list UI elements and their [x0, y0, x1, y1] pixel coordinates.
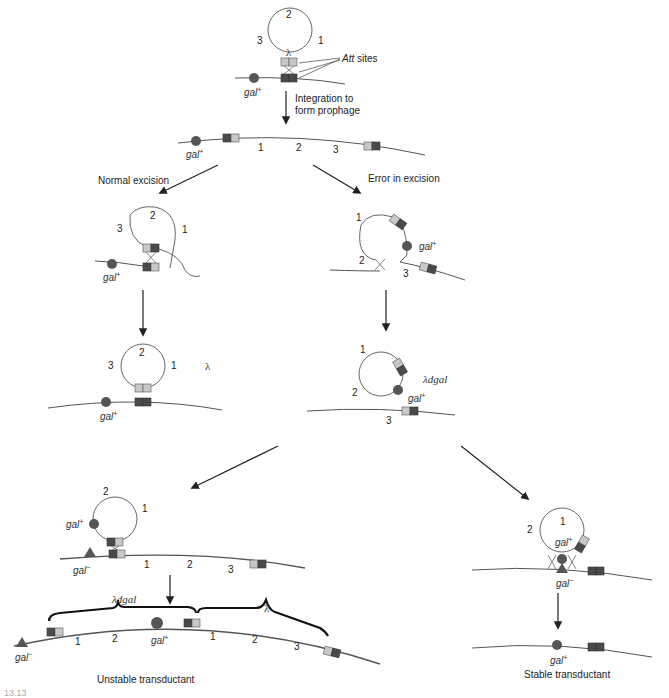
gene-2-label: 2 — [352, 387, 358, 398]
unstable-transductant-label: Unstable transductant — [97, 674, 195, 685]
stage-prophage: gal+ 1 2 3 — [178, 134, 425, 160]
gal-plus-label: gal+ — [550, 654, 567, 666]
gene-1-label: 1 — [144, 559, 150, 570]
lambda-label: λ — [264, 602, 270, 614]
att-site-bacterial — [588, 567, 604, 575]
gal-plus-label: gal+ — [408, 392, 425, 404]
gene-1-label: 1 — [356, 212, 362, 223]
gene-2-label: 2 — [296, 142, 302, 153]
unstable-branch-arrow — [192, 446, 278, 488]
att-site-loop — [389, 214, 407, 230]
normal-excision-label: Normal excision — [98, 175, 169, 186]
gene-1-label: 1 — [210, 631, 216, 642]
gene-3-label: 3 — [228, 564, 234, 575]
att-site-1 — [47, 628, 63, 636]
chromosome — [307, 409, 455, 415]
att-sites-label: Att sites — [341, 53, 378, 64]
lambda-dgal-circle — [93, 497, 137, 541]
gene-3-label: 3 — [108, 360, 114, 371]
att-site-right — [364, 142, 380, 150]
gene-3-label: 3 — [257, 35, 263, 46]
att-site-bacterial — [281, 74, 297, 82]
gal-plus-label: gal+ — [103, 271, 120, 283]
gal-plus-marker — [191, 136, 201, 146]
stable-transductant-label: Stable transductant — [524, 669, 610, 680]
gene-1-label: 1 — [258, 142, 264, 153]
gene-2-label: 2 — [527, 524, 533, 535]
gene-1-label: 1 — [318, 35, 324, 46]
gal-plus-marker — [249, 73, 259, 83]
gal-plus-marker — [151, 617, 163, 629]
att-site-right — [250, 560, 266, 568]
gal-plus-marker — [552, 640, 562, 650]
stage-phage-attachment: 2 3 1 λ gal+ Att sites — [235, 8, 378, 98]
gene-3-label: 3 — [403, 268, 409, 279]
gal-minus-marker — [556, 563, 568, 573]
gene-3-label: 3 — [386, 415, 392, 426]
gal-plus-marker — [89, 519, 99, 529]
gene-2-label: 2 — [103, 486, 109, 497]
gene-3-label: 3 — [294, 641, 300, 652]
att-site-phage — [575, 535, 590, 553]
gal-minus-marker — [84, 547, 96, 557]
gene-3-label: 3 — [117, 223, 123, 234]
stage-lambda-dgal: 1 2 λdgal gal+ 3 — [307, 344, 455, 426]
gal-plus-label: gal+ — [66, 518, 83, 530]
figure-caption-fragment: 13.13 — [4, 688, 27, 698]
gal-plus-marker — [101, 397, 111, 407]
stage-free-lambda: 2 3 1 λ gal+ — [48, 344, 222, 422]
gene-2-label: 2 — [286, 9, 292, 20]
stage-normal-excision: 2 3 1 gal+ — [95, 207, 200, 283]
stage-unstable-integration: 2 1 gal+ gal− 1 2 3 — [60, 486, 305, 576]
gal-plus-label: gal+ — [555, 536, 572, 548]
att-site-bacterial — [588, 643, 604, 651]
integration-label-line2: form prophage — [295, 105, 360, 116]
gene-2-label: 2 — [139, 347, 145, 358]
chromosome — [60, 555, 305, 568]
gal-plus-label: gal+ — [100, 410, 117, 422]
lambda-label: λ — [205, 360, 211, 372]
gene-3-label: 3 — [333, 144, 339, 155]
gal-minus-label: gal− — [15, 651, 32, 663]
gene-1-label: 1 — [171, 360, 177, 371]
att-site-bacterial — [109, 550, 125, 558]
gal-plus-label: gal+ — [186, 148, 203, 160]
stable-branch-arrow — [461, 446, 528, 499]
gal-plus-label: gal+ — [419, 240, 436, 252]
gal-plus-label: gal+ — [151, 634, 168, 646]
gene-1-label: 1 — [75, 636, 81, 647]
att-site-chromosome — [419, 262, 437, 274]
integration-label: Integration to — [295, 93, 354, 104]
stage-stable-transductant: gal+ Stable transductant — [472, 640, 652, 680]
att-site-phage — [393, 358, 408, 376]
gal-plus-marker — [402, 241, 412, 251]
stage-stable-integration: 1 2 gal+ gal− — [472, 508, 652, 589]
gal-plus-label: gal+ — [244, 86, 261, 98]
lambda-label: λ — [286, 46, 292, 58]
att-site-phage — [107, 538, 123, 546]
att-site-bacterial — [402, 407, 418, 415]
gal-plus-marker — [393, 385, 403, 395]
gal-minus-marker — [16, 637, 28, 647]
att-site-top — [143, 244, 159, 252]
att-site-bacterial — [135, 398, 151, 406]
gal-minus-label: gal− — [556, 577, 573, 589]
att-site-phage — [281, 58, 297, 66]
gene-1-label: 1 — [360, 344, 366, 355]
gene-1-label: 1 — [142, 503, 148, 514]
att-site-2 — [184, 619, 200, 627]
gene-1-label: 1 — [560, 516, 566, 527]
lambda-dgal-label: λdgal — [111, 593, 136, 605]
gene-2-label: 2 — [252, 634, 258, 645]
gene-2-label: 2 — [187, 559, 193, 570]
gal-plus-marker — [107, 259, 117, 269]
gene-2-label: 2 — [359, 255, 365, 266]
att-site-3 — [323, 646, 340, 658]
att-site-phage — [135, 384, 151, 392]
gal-minus-label: gal− — [73, 564, 90, 576]
error-excision-label: Error in excision — [368, 173, 440, 184]
stage-error-excision: 1 2 3 gal+ — [330, 212, 465, 280]
gene-2-label: 2 — [150, 210, 156, 221]
gene-1-label: 1 — [182, 224, 188, 235]
transduction-diagram: 2 3 1 λ gal+ Att sites Integration to fo… — [0, 0, 669, 698]
